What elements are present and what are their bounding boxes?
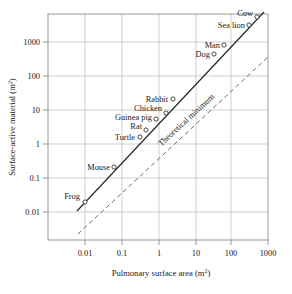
point-label: Man [205,41,221,50]
data-point-dog[interactable]: Dog [196,50,217,59]
point-label: Dog [196,50,211,59]
log-log-scatter-chart: 1000 100 10 1 0.1 0.01 0.01 0.1 1 10 100… [0,0,292,294]
grid-horizontal [48,42,268,212]
data-point-sea-lion[interactable]: Sea lion [218,21,251,30]
x-tick-label: 1 [157,249,161,258]
marker[interactable] [164,111,168,115]
marker[interactable] [138,135,142,139]
data-points: Frog Mouse Turtle Rat Guinea pig Chicken [64,9,259,204]
data-point-mouse[interactable]: Mouse [87,163,116,172]
point-label: Sea lion [218,21,246,30]
marker[interactable] [112,165,116,169]
y-tick-label: 0.1 [30,174,40,183]
data-point-frog[interactable]: Frog [64,192,87,204]
x-axis-title: Pulmonary surface area (m2) [112,268,211,278]
x-tick-label: 0.01 [78,249,93,258]
y-tick-label: 0.01 [25,208,40,217]
y-tick-label: 100 [27,72,40,81]
data-point-rat[interactable]: Rat [130,122,148,132]
marker[interactable] [171,97,175,101]
y-axis-title-text: Surface-active material (m [7,84,17,176]
x-tick-label: 0.1 [117,249,127,258]
data-point-turtle[interactable]: Turtle [115,133,142,142]
data-point-rabbit[interactable]: Rabbit [146,95,175,104]
marker[interactable] [83,200,87,204]
y-axis-tick-labels: 1000 100 10 1 0.1 0.01 [23,38,40,217]
point-label: Rabbit [146,95,169,104]
y-axis-title: Surface-active material (m2) [7,78,17,176]
point-label: Chicken [134,104,163,113]
marker[interactable] [222,43,226,47]
point-label: Rat [130,122,142,131]
point-label: Turtle [115,133,135,142]
marker[interactable] [255,15,259,19]
y-axis-ticks [43,42,48,212]
theoretical-minimum-line [78,57,268,234]
data-point-guinea-pig[interactable]: Guinea pig [115,113,158,122]
marker[interactable] [154,117,158,121]
marker[interactable] [144,128,148,132]
x-tick-label: 100 [225,249,238,258]
y-tick-label: 10 [32,106,40,115]
point-label: Cow [237,9,254,18]
x-axis-ticks [85,240,268,245]
x-tick-label: 10 [192,249,200,258]
point-label: Guinea pig [115,113,153,122]
y-tick-label: 1 [36,140,40,149]
x-axis-title-tail: ) [207,268,210,278]
marker[interactable] [212,52,216,56]
x-axis-tick-labels: 0.01 0.1 1 10 100 1000 [78,249,277,258]
x-tick-label: 1000 [260,249,277,258]
point-label: Mouse [87,163,110,172]
y-axis-title-tail: ) [7,78,17,81]
marker[interactable] [247,23,251,27]
chart-canvas: 1000 100 10 1 0.1 0.01 0.01 0.1 1 10 100… [0,0,292,294]
y-tick-label: 1000 [23,38,40,47]
point-label: Frog [64,192,81,201]
x-axis-title-text: Pulmonary surface area (m [112,268,205,278]
